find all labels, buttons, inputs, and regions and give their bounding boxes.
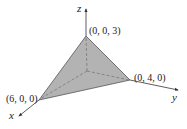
- vertex-label-x-intercept: (6, 0, 0): [6, 94, 38, 104]
- y-axis-label: y: [172, 92, 177, 103]
- z-axis-label: z: [77, 3, 81, 14]
- x-axis-label: x: [9, 110, 14, 121]
- plane-triangle-diagram: [0, 0, 187, 129]
- vertex-label-z-intercept: (0, 0, 3): [89, 26, 121, 36]
- triangle-face: [39, 36, 130, 100]
- vertex-label-y-intercept: (0, 4, 0): [134, 73, 166, 83]
